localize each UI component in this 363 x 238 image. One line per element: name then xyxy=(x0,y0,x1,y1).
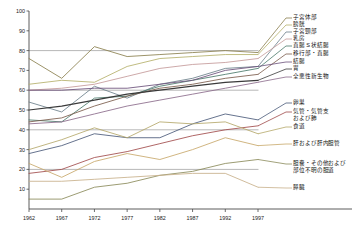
legend-label-line: 子宮体部 xyxy=(293,14,317,20)
legend-label-line: 胃 xyxy=(293,65,299,71)
legend-label-line: 肝および肝内胆管 xyxy=(293,140,340,146)
svg-text:1972: 1972 xyxy=(88,215,100,221)
svg-text:60: 60 xyxy=(19,87,25,93)
svg-text:1997: 1997 xyxy=(252,215,264,221)
legend-label-line: 気管・気管支 xyxy=(293,108,328,114)
svg-text:1987: 1987 xyxy=(187,215,199,221)
legend-item-15: 膵臓 xyxy=(293,184,305,190)
legend-label-line: 直腸 S 状結腸 xyxy=(293,42,329,48)
svg-text:70: 70 xyxy=(19,67,25,73)
legend-label-line: 子宮頸部 xyxy=(293,28,317,34)
legend-item-13: 肝および肝内胆管 xyxy=(293,140,340,146)
svg-text:1962: 1962 xyxy=(23,215,35,221)
svg-text:100: 100 xyxy=(16,8,25,14)
legend-label-line: 食道 xyxy=(293,123,305,129)
legend-item-9: 全悪性新生物 xyxy=(293,73,328,79)
legend-item-12: 食道 xyxy=(293,123,305,129)
legend-item-11: 気管・気管支および肺 xyxy=(293,108,328,121)
legend-label-line: 結腸 xyxy=(293,58,305,64)
legend-item-1: 子宮体部 xyxy=(293,14,317,20)
legend-label-line: 胆嚢・その他および xyxy=(293,160,346,166)
legend-item-5: 直腸 S 状結腸 xyxy=(293,42,329,48)
legend-label-line: 膵臓 xyxy=(293,184,305,190)
svg-text:80: 80 xyxy=(19,48,25,54)
svg-text:90: 90 xyxy=(19,28,25,34)
legend-label-line: 部位不明の胆道 xyxy=(293,167,334,173)
svg-text:50: 50 xyxy=(19,107,25,113)
legend-item-14: 胆嚢・その他および部位不明の胆道 xyxy=(293,160,346,173)
legend-label-line: 全悪性新生物 xyxy=(293,73,328,79)
legend-label-line: 移行部・直腸 xyxy=(293,50,328,56)
legend-item-8: 胃 xyxy=(293,65,299,71)
legend-label-line: 膀胱 xyxy=(293,21,305,27)
svg-text:30: 30 xyxy=(19,147,25,153)
svg-text:1977: 1977 xyxy=(121,215,133,221)
legend-item-10: 卵巣 xyxy=(293,99,305,105)
legend-label-line: および肺 xyxy=(293,115,317,121)
legend-label-line: 乳房 xyxy=(293,35,305,41)
svg-text:1992: 1992 xyxy=(219,215,231,221)
chart-container: 女性 五年生存率% 年 102030405060708090100 196219… xyxy=(0,0,363,238)
svg-text:40: 40 xyxy=(19,127,25,133)
legend-item-7: 結腸 xyxy=(293,58,305,64)
legend-item-4: 乳房 xyxy=(293,35,305,41)
svg-text:20: 20 xyxy=(19,166,25,172)
svg-text:1982: 1982 xyxy=(154,215,166,221)
legend-item-3: 子宮頸部 xyxy=(293,28,317,34)
svg-text:10: 10 xyxy=(19,186,25,192)
legend-item-6: 移行部・直腸 xyxy=(293,50,328,56)
legend-item-2: 膀胱 xyxy=(293,21,305,27)
svg-text:1967: 1967 xyxy=(56,215,68,221)
legend-label-line: 卵巣 xyxy=(293,99,305,105)
